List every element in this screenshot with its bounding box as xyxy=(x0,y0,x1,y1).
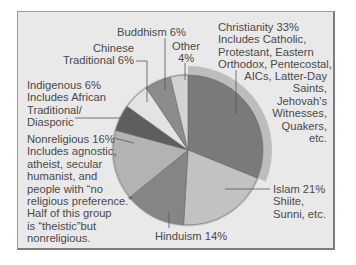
label-islam: Islam 21% Shiite, Sunni, etc. xyxy=(273,183,326,220)
label-christianity-continued: AICs, Latter-Day Saints, Jehovah's Witne… xyxy=(227,70,327,144)
label-other: Other 4% xyxy=(172,40,200,65)
label-buddhism: Buddhism 6% xyxy=(117,26,186,38)
label-hinduism: Hinduism 14% xyxy=(155,230,227,242)
label-christianity: Christianity 33% Includes Catholic, Prot… xyxy=(218,21,332,71)
label-chinese-traditional: Chinese Traditional 6% xyxy=(54,42,134,67)
label-nonreligious: Nonreligious 16% Includes agnostic, athe… xyxy=(27,133,132,245)
label-indigenous: Indigenous 6% Includes African Tradition… xyxy=(27,79,106,129)
